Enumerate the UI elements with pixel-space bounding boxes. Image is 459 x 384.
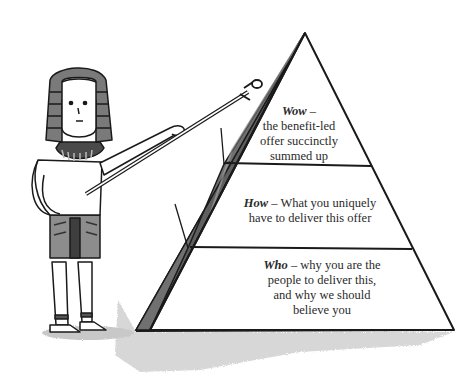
tier-wow-label: Wow – the benefit-led offer succinctly s… bbox=[243, 104, 355, 164]
tier-wow-line: summed up bbox=[270, 149, 328, 163]
tier-who-keyword: Who bbox=[263, 258, 287, 272]
tier-who-line: and why we should bbox=[274, 288, 371, 302]
tier-who-label: Who – why you are the people to deliver … bbox=[212, 258, 432, 318]
tier-how-line: What you uniquely bbox=[280, 196, 376, 210]
tier-how-label: How – What you uniquely have to deliver … bbox=[214, 196, 406, 226]
tier-wow-line: the benefit-led bbox=[263, 119, 336, 133]
tier-who-line: people to deliver this, bbox=[268, 273, 376, 287]
tier-how-keyword: How bbox=[244, 196, 268, 210]
pyramid-diagram: Wow – the benefit-led offer succinctly s… bbox=[0, 0, 459, 384]
tier-how-line: have to deliver this offer bbox=[249, 211, 372, 225]
tier-wow-keyword: Wow bbox=[282, 104, 307, 118]
tier-who-line: believe you bbox=[293, 303, 351, 317]
tier-who-line: why you are the bbox=[300, 258, 380, 272]
illustration-canvas bbox=[0, 0, 459, 384]
tier-wow-line: offer succinctly bbox=[260, 134, 338, 148]
